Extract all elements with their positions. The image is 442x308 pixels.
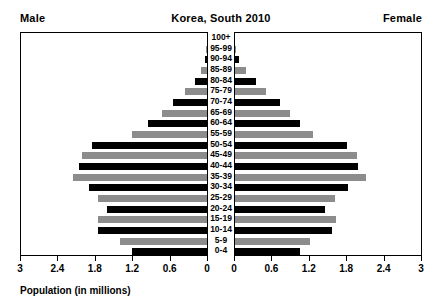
bar-female-25-29 [235, 195, 335, 202]
x-tick [57, 256, 58, 261]
x-tick [421, 256, 422, 261]
page-title: Korea, South 2010 [0, 12, 442, 24]
age-label-25-29: 25-29 [208, 193, 234, 202]
bar-female-60-64 [235, 120, 300, 127]
female-plot-panel [234, 32, 422, 256]
male-plot-panel [20, 32, 208, 256]
bar-male-35-39 [73, 174, 207, 181]
bar-female-35-39 [235, 174, 366, 181]
bar-female-20-24 [235, 206, 325, 213]
age-label-20-24: 20-24 [208, 204, 234, 213]
x-tick-label-0: 0 [192, 263, 222, 274]
x-tick-label-1.8: 1.8 [80, 263, 110, 274]
bar-female-70-74 [235, 99, 280, 106]
female-side-label: Female [383, 12, 422, 24]
bar-male-75-79 [185, 88, 207, 95]
bar-female-40-44 [235, 163, 358, 170]
age-label-10-14: 10-14 [208, 225, 234, 234]
x-tick-label-0.6: 0.6 [155, 263, 185, 274]
bar-female-80-84 [235, 78, 256, 85]
age-label-15-19: 15-19 [208, 214, 234, 223]
age-label-95-99: 95-99 [208, 44, 234, 53]
age-label-55-59: 55-59 [208, 129, 234, 138]
age-label-35-39: 35-39 [208, 172, 234, 181]
bar-male-55-59 [132, 131, 207, 138]
x-tick [234, 256, 235, 261]
age-label-65-69: 65-69 [208, 108, 234, 117]
x-tick [132, 256, 133, 261]
bar-male-95-99 [206, 46, 207, 53]
bar-male-70-74 [173, 99, 207, 106]
x-tick-label-3: 3 [5, 263, 35, 274]
bar-male-60-64 [148, 120, 207, 127]
female-bars-group [235, 33, 421, 255]
age-label-60-64: 60-64 [208, 118, 234, 127]
age-label-100plus: 100+ [208, 33, 234, 42]
age-label-90-94: 90-94 [208, 54, 234, 63]
male-x-axis-line [20, 256, 208, 262]
x-tick-label-1.2: 1.2 [294, 263, 324, 274]
age-label-70-74: 70-74 [208, 97, 234, 106]
bar-female-95-99 [235, 46, 236, 53]
bar-male-15-19 [98, 216, 207, 223]
x-tick-label-2.4: 2.4 [369, 263, 399, 274]
age-label-5-9: 5-9 [208, 236, 234, 245]
x-tick-label-1.8: 1.8 [331, 263, 361, 274]
bar-female-10-14 [235, 227, 332, 234]
bar-female-45-49 [235, 152, 357, 159]
male-x-tick-labels: 32.41.81.20.60 [20, 263, 208, 277]
bar-male-0-4 [132, 248, 207, 255]
age-label-40-44: 40-44 [208, 161, 234, 170]
x-tick-label-0.6: 0.6 [256, 263, 286, 274]
x-tick [207, 256, 208, 261]
bar-male-90-94 [205, 56, 207, 63]
female-x-axis-line [234, 256, 422, 262]
bar-female-90-94 [235, 56, 239, 63]
bar-male-80-84 [195, 78, 207, 85]
age-group-axis: 100+95-9990-9485-8980-8475-7970-7465-696… [208, 32, 234, 256]
x-tick [309, 256, 310, 261]
bar-male-45-49 [82, 152, 207, 159]
x-tick [271, 256, 272, 261]
x-tick-label-2.4: 2.4 [42, 263, 72, 274]
x-tick [346, 256, 347, 261]
x-tick [20, 256, 21, 261]
x-tick [95, 256, 96, 261]
bar-female-65-69 [235, 110, 290, 117]
bar-male-65-69 [162, 110, 207, 117]
bar-male-25-29 [98, 195, 207, 202]
bar-male-5-9 [120, 238, 207, 245]
bar-male-85-89 [201, 67, 207, 74]
age-label-30-34: 30-34 [208, 182, 234, 191]
age-label-0-4: 0-4 [208, 246, 234, 255]
bar-female-5-9 [235, 238, 310, 245]
x-tick-label-3: 3 [406, 263, 436, 274]
bar-female-0-4 [235, 248, 300, 255]
bar-male-30-34 [89, 184, 207, 191]
bar-female-75-79 [235, 88, 266, 95]
bar-female-30-34 [235, 184, 348, 191]
x-tick-label-1.2: 1.2 [117, 263, 147, 274]
male-bars-group [21, 33, 207, 255]
bar-female-50-54 [235, 142, 347, 149]
age-label-50-54: 50-54 [208, 140, 234, 149]
bar-male-40-44 [79, 163, 207, 170]
age-label-75-79: 75-79 [208, 86, 234, 95]
bar-female-15-19 [235, 216, 336, 223]
bar-female-55-59 [235, 131, 313, 138]
age-label-80-84: 80-84 [208, 76, 234, 85]
axis-caption: Population (in millions) [20, 285, 131, 296]
age-label-85-89: 85-89 [208, 65, 234, 74]
x-tick-label-0: 0 [219, 263, 249, 274]
bar-female-85-89 [235, 67, 246, 74]
female-x-tick-labels: 00.61.21.82.43 [234, 263, 422, 277]
x-tick [170, 256, 171, 261]
population-pyramid-chart: Male Korea, South 2010 Female 100+95-999… [0, 0, 442, 308]
x-tick [384, 256, 385, 261]
bar-male-50-54 [92, 142, 207, 149]
bar-male-20-24 [107, 206, 207, 213]
bar-male-10-14 [98, 227, 207, 234]
age-label-45-49: 45-49 [208, 150, 234, 159]
